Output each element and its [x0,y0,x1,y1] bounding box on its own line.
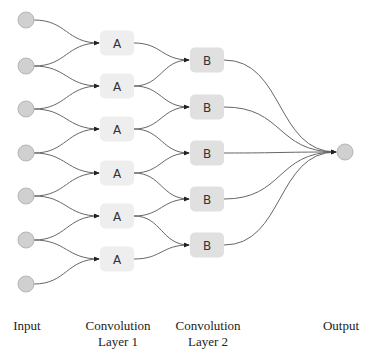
input-node [18,12,34,28]
edge-conv2-output [224,152,336,153]
edge-input-conv1 [34,43,99,66]
edge-conv1-conv2 [134,199,189,216]
conv2-node-label: B [203,147,211,161]
conv2-node-label: B [203,239,211,253]
conv2-node: B [190,95,224,120]
output-layer-label: Output [296,318,371,334]
conv2-node: B [190,187,224,212]
conv1-node: A [100,31,134,56]
edge-conv2-output [224,107,336,152]
edge-input-conv1 [34,129,99,153]
edge-conv1-conv2 [134,43,189,60]
edge-input-conv1 [34,259,99,284]
edge-input-conv1 [34,66,99,86]
conv1-node-label: A [113,253,122,267]
conv1-node-label: A [113,80,122,94]
conv1-layer-label: Convolution Layer 1 [73,318,163,350]
edge-input-conv1 [34,216,99,240]
edge-conv1-conv2 [134,86,189,107]
conv2-node-label: B [203,193,211,207]
input-layer-label: Input [0,318,72,334]
edge-conv1-conv2 [134,216,189,245]
output-label-text: Output [323,318,359,333]
edge-conv2-output [224,152,336,199]
conv1-node: A [100,74,134,99]
conv2-label-line1: Convolution [163,318,253,334]
conv1-node: A [100,247,134,272]
conv1-node: A [100,161,134,186]
conv2-label-line2: Layer 2 [163,334,253,350]
edge-conv2-output [224,60,336,152]
conv2-node-label: B [203,54,211,68]
conv2-node: B [190,48,224,73]
input-node [18,276,34,292]
input-label-text: Input [13,318,40,333]
output-node [337,144,353,160]
edge-input-conv1 [34,240,99,259]
edge-input-conv1 [34,173,99,196]
edge-conv2-output [224,152,336,245]
edge-conv1-conv2 [134,107,189,129]
edge-input-conv1 [34,153,99,173]
network-diagram: AAAAAABBBBB [0,0,371,300]
conv1-node: A [100,204,134,229]
input-node [18,145,34,161]
edge-conv1-conv2 [134,245,189,259]
conv2-node: B [190,233,224,258]
conv1-node-label: A [113,37,122,51]
edge-conv1-conv2 [134,153,189,173]
input-node [18,101,34,117]
conv1-node-label: A [113,123,122,137]
edge-input-conv1 [34,20,99,43]
conv2-layer-label: Convolution Layer 2 [163,318,253,350]
edge-conv1-conv2 [134,129,189,153]
conv1-node-label: A [113,167,122,181]
input-node [18,188,34,204]
conv2-node-label: B [203,101,211,115]
input-node [18,232,34,248]
edge-conv1-conv2 [134,60,189,86]
conv1-node-label: A [113,210,122,224]
edge-conv1-conv2 [134,173,189,199]
conv2-node: B [190,141,224,166]
conv1-node: A [100,117,134,142]
edge-input-conv1 [34,109,99,129]
conv1-label-line1: Convolution [73,318,163,334]
input-node [18,58,34,74]
conv1-label-line2: Layer 1 [73,334,163,350]
edge-input-conv1 [34,196,99,216]
edge-input-conv1 [34,86,99,109]
